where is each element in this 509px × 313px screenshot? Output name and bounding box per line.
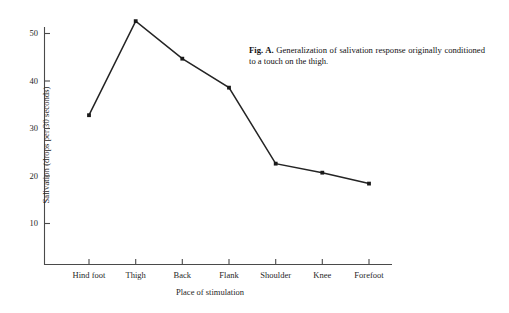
y-axis-title: Salivation (drops per 30 seconds) bbox=[41, 45, 51, 245]
data-point-knee bbox=[320, 171, 324, 175]
x-tick-label-flank: Flank bbox=[219, 270, 238, 280]
data-point-back bbox=[180, 57, 184, 61]
data-point-thigh bbox=[134, 19, 138, 23]
figure-caption: Fig. A. Generalization of salivation res… bbox=[249, 45, 485, 68]
data-point-hind-foot bbox=[87, 113, 91, 117]
y-tick-label-50: 50 bbox=[12, 28, 38, 38]
x-tick-label-thigh: Thigh bbox=[126, 270, 146, 280]
figure-caption-text: Generalization of salivation response or… bbox=[249, 45, 485, 66]
y-tick-label-30: 30 bbox=[12, 123, 38, 133]
x-tick-label-forefoot: Forefoot bbox=[354, 270, 383, 280]
figure-generalization-of-salivation: 50 40 30 20 10 Salivation (drops per 30 … bbox=[0, 0, 509, 313]
x-tick-label-knee: Knee bbox=[313, 270, 331, 280]
x-axis-title: Place of stimulation bbox=[0, 287, 420, 297]
y-tick-label-20: 20 bbox=[12, 171, 38, 181]
data-point-flank bbox=[227, 86, 231, 90]
data-point-shoulder bbox=[274, 162, 278, 166]
y-tick-label-40: 40 bbox=[12, 76, 38, 86]
x-tick-label-hind-foot: Hind foot bbox=[73, 270, 106, 280]
data-point-forefoot bbox=[367, 182, 371, 186]
y-tick-label-10: 10 bbox=[12, 218, 38, 228]
x-tick-label-back: Back bbox=[174, 270, 191, 280]
x-tick-label-shoulder: Shoulder bbox=[260, 270, 291, 280]
figure-caption-label: Fig. A. bbox=[249, 45, 274, 55]
